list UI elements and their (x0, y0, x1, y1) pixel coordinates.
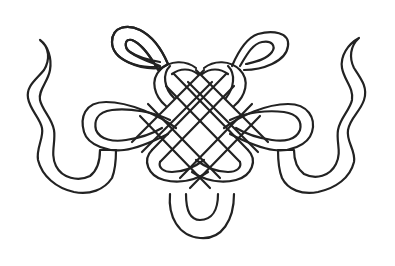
left-ribbon-tail (28, 40, 116, 193)
top-right-loop (232, 32, 288, 70)
right-ribbon-tail (278, 38, 365, 193)
top-left-loop (112, 27, 168, 70)
knot-illustration (0, 0, 395, 266)
bottom-loop (170, 194, 234, 238)
center-lattice (132, 62, 268, 188)
endless-knot-drawing (0, 0, 395, 266)
left-side-loop (83, 102, 176, 150)
